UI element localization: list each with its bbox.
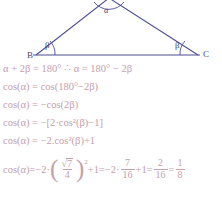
angle-label-alpha: α bbox=[104, 7, 108, 15]
triangle-diagram: B C α β β bbox=[0, 0, 222, 62]
final-equals-3: = bbox=[147, 164, 153, 175]
fraction-denominator: 8 bbox=[176, 169, 185, 180]
final-plus-one-a: +1 bbox=[88, 164, 99, 175]
equation-line-1: α + 2β = 180° ∴ α = 180° − 2β bbox=[0, 59, 222, 77]
fraction-2-over-16: 2 16 bbox=[154, 158, 168, 179]
vertex-label-c: C bbox=[203, 50, 209, 59]
final-coefficient-2: −2· bbox=[105, 164, 120, 175]
equation-line-2: cos(α) = cos(180°−2β) bbox=[0, 77, 222, 95]
exponent-two: 2 bbox=[84, 158, 88, 166]
equation-line-6: cos(α) = −2· ( √7 4 ) 2 +1 = −2· 7 16 +1… bbox=[0, 149, 222, 189]
angle-arc-beta-right bbox=[180, 41, 185, 55]
fraction-denominator: 16 bbox=[154, 169, 168, 180]
equation-list: α + 2β = 180° ∴ α = 180° − 2β cos(α) = c… bbox=[0, 59, 222, 189]
paren-open: ( bbox=[50, 160, 58, 178]
angle-label-beta-left: β bbox=[45, 41, 50, 50]
fraction-denominator: 4 bbox=[63, 169, 72, 180]
final-lhs: cos(α) bbox=[3, 164, 30, 175]
equation-line-4: cos(α) = −[2·cos²(β)−1] bbox=[0, 113, 222, 131]
fraction-1-over-8: 1 8 bbox=[176, 158, 185, 179]
fraction-sqrt7-over-4: √7 4 bbox=[59, 158, 75, 180]
sqrt-radicand: 7 bbox=[66, 158, 73, 169]
triangle-svg bbox=[0, 0, 222, 62]
fraction-7-over-16: 7 16 bbox=[121, 158, 135, 179]
final-equals-4: = bbox=[169, 164, 175, 175]
paren-close: ) bbox=[76, 160, 84, 178]
final-coefficient-1: −2· bbox=[35, 164, 50, 175]
triangle-side-ac bbox=[109, 0, 198, 55]
fraction-numerator: 1 bbox=[176, 158, 185, 168]
equation-line-3: cos(α) = −cos(2β) bbox=[0, 95, 222, 113]
fraction-numerator: 7 bbox=[123, 158, 132, 168]
angle-label-beta-right: β bbox=[175, 41, 180, 50]
final-plus-one-b: +1 bbox=[136, 164, 147, 175]
equation-line-5: cos(α) = −2.cos²(β)+1 bbox=[0, 131, 222, 149]
fraction-denominator: 16 bbox=[121, 169, 135, 180]
fraction-numerator: 2 bbox=[156, 158, 165, 168]
trigonometry-worked-solution: B C α β β α + 2β = 180° ∴ α = 180° − 2β … bbox=[0, 0, 222, 207]
sqrt-seven: √7 bbox=[59, 158, 75, 169]
